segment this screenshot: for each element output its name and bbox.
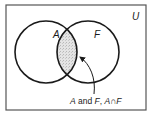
intersection-annotation: A and F, A∩F — [69, 96, 122, 106]
universe-label: U — [132, 11, 140, 22]
set-f-label: F — [94, 29, 101, 40]
venn-diagram: U A F A and F, A∩F — [0, 0, 154, 118]
set-a-label: A — [52, 29, 60, 40]
